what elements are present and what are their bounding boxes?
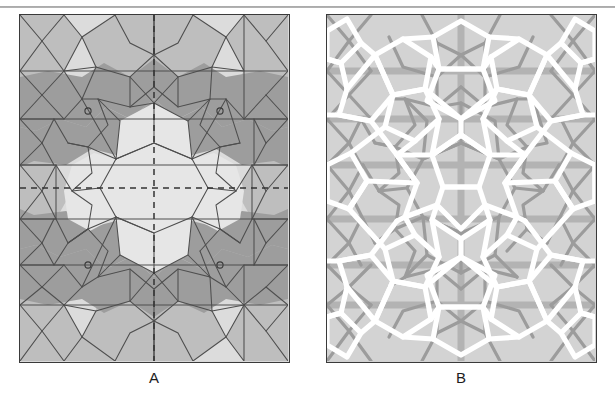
panel-b-strapwork: [326, 14, 597, 363]
top-rule-divider: [0, 6, 615, 8]
panel-b-svg: [327, 15, 595, 361]
figure-root: A: [0, 0, 615, 400]
panel-b-label: B: [431, 369, 491, 387]
panel-a-label: A: [124, 369, 184, 387]
panel-a-girih-tiling: [19, 14, 290, 363]
panel-a-svg: [20, 15, 288, 361]
